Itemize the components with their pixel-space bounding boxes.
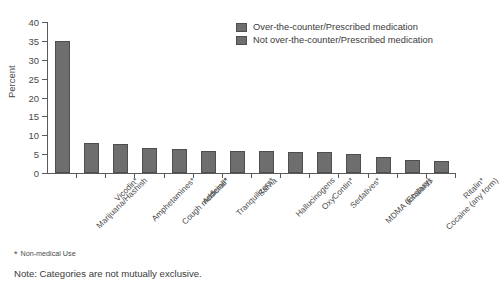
asterisk-marker: * bbox=[14, 249, 18, 259]
bar bbox=[230, 151, 245, 173]
x-tick-label: Adderall* bbox=[201, 176, 231, 206]
bar bbox=[405, 160, 420, 173]
y-tick-mark bbox=[42, 79, 47, 80]
bar bbox=[259, 151, 274, 173]
bar bbox=[288, 152, 303, 173]
y-tick-label: 30 bbox=[28, 54, 39, 65]
bar bbox=[376, 157, 391, 173]
x-axis-labels: Marijuana/HashishVicodin*Amphetamines*Co… bbox=[47, 176, 478, 236]
bar-slot bbox=[48, 22, 77, 173]
x-tick-label: Salvia bbox=[256, 176, 278, 198]
y-tick-label: 25 bbox=[28, 73, 39, 84]
y-tick-label: 20 bbox=[28, 92, 39, 103]
y-tick-mark bbox=[42, 60, 47, 61]
y-tick-label: 5 bbox=[34, 149, 39, 160]
bar bbox=[346, 154, 361, 173]
y-tick-mark bbox=[42, 41, 47, 42]
legend-item[interactable]: Over-the-counter/Prescribed medication bbox=[236, 22, 433, 32]
bar bbox=[172, 149, 187, 173]
x-tick-label: Inhalants bbox=[405, 176, 435, 206]
bar bbox=[113, 144, 128, 173]
bar bbox=[201, 151, 216, 173]
y-tick-mark bbox=[42, 154, 47, 155]
y-tick-label: 40 bbox=[28, 17, 39, 28]
bar-slot bbox=[165, 22, 194, 173]
chart-note: Note: Categories are not mutually exclus… bbox=[14, 268, 202, 279]
chart-legend: Over-the-counter/Prescribed medicationNo… bbox=[236, 22, 433, 48]
legend-item[interactable]: Not over-the-counter/Prescribed medicati… bbox=[236, 35, 433, 45]
bar-slot bbox=[194, 22, 223, 173]
legend-label: Not over-the-counter/Prescribed medicati… bbox=[253, 35, 433, 45]
y-tick-mark bbox=[42, 173, 47, 174]
y-tick-label: 0 bbox=[34, 168, 39, 179]
legend-swatch-icon bbox=[236, 36, 247, 45]
bar bbox=[84, 143, 99, 173]
bar bbox=[434, 161, 449, 173]
legend-swatch-icon bbox=[236, 23, 247, 32]
y-axis-title: Percent bbox=[6, 65, 17, 98]
bar-slot bbox=[106, 22, 135, 173]
bar bbox=[142, 148, 157, 173]
y-tick-label: 15 bbox=[28, 111, 39, 122]
bar-slot bbox=[135, 22, 164, 173]
bar bbox=[55, 41, 70, 173]
asterisk-footnote-text: Non-medical Use bbox=[21, 249, 76, 258]
x-tick-label: Marijuana/Hashish bbox=[95, 176, 149, 230]
bar bbox=[317, 152, 332, 173]
bar-slot bbox=[77, 22, 106, 173]
asterisk-footnote: *Non-medical Use bbox=[14, 249, 76, 259]
y-tick-mark bbox=[42, 135, 47, 136]
y-tick-label: 10 bbox=[28, 130, 39, 141]
legend-label: Over-the-counter/Prescribed medication bbox=[253, 22, 418, 32]
y-tick-mark bbox=[42, 98, 47, 99]
y-tick-mark bbox=[42, 22, 47, 23]
y-tick-label: 35 bbox=[28, 35, 39, 46]
y-tick-mark bbox=[42, 116, 47, 117]
